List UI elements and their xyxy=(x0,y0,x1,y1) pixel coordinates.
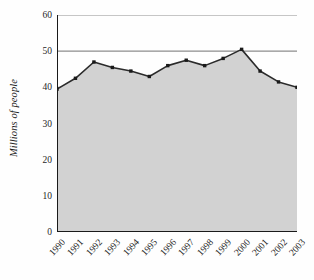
data-point-marker xyxy=(203,64,206,67)
x-tick-label: 2000 xyxy=(232,237,252,258)
data-point-marker xyxy=(57,87,59,90)
x-tick-label: 1997 xyxy=(176,237,196,258)
plot-area xyxy=(57,15,297,232)
x-tick-label: 1994 xyxy=(121,237,141,258)
data-point-marker xyxy=(277,80,280,83)
y-axis-title-container: Millions of people xyxy=(0,0,26,235)
data-point-marker xyxy=(129,69,132,72)
data-point-marker xyxy=(74,77,77,80)
chart-svg xyxy=(57,15,297,232)
x-axis-tick-labels: 1990199119921993199419951996199719981999… xyxy=(57,233,297,280)
x-tick-label: 1993 xyxy=(102,237,122,258)
x-tick-label: 1992 xyxy=(84,237,104,258)
data-point-marker xyxy=(240,48,243,51)
data-point-marker xyxy=(185,59,188,62)
area-fill xyxy=(57,49,297,232)
data-point-marker xyxy=(92,60,95,63)
area-fill-group xyxy=(57,49,297,232)
y-tick-label: 20 xyxy=(30,155,52,165)
x-tick-label: 1991 xyxy=(65,237,85,258)
y-tick-label: 40 xyxy=(30,82,52,92)
data-point-marker xyxy=(295,86,297,89)
data-point-marker xyxy=(258,69,261,72)
y-tick-label: 60 xyxy=(30,10,52,20)
data-point-marker xyxy=(148,75,151,78)
data-point-marker xyxy=(221,57,224,60)
data-point-marker xyxy=(166,64,169,67)
x-tick-label: 1996 xyxy=(158,237,178,258)
y-axis-tick-labels: 6050403020100 xyxy=(26,0,52,280)
x-tick-label: 1995 xyxy=(139,237,159,258)
y-tick-label: 0 xyxy=(30,227,52,237)
y-tick-label: 10 xyxy=(30,191,52,201)
y-axis-title: Millions of people xyxy=(8,78,19,156)
data-point-marker xyxy=(111,66,114,69)
x-tick-label: 2003 xyxy=(287,237,307,258)
x-tick-label: 1998 xyxy=(195,237,215,258)
y-tick-label: 30 xyxy=(30,119,52,129)
x-tick-label: 1999 xyxy=(213,237,233,258)
chart-figure: Millions of people 6050403020100 1990199… xyxy=(0,0,314,280)
x-tick-label: 2002 xyxy=(269,237,289,258)
x-tick-label: 2001 xyxy=(250,237,270,258)
y-tick-label: 50 xyxy=(30,46,52,56)
